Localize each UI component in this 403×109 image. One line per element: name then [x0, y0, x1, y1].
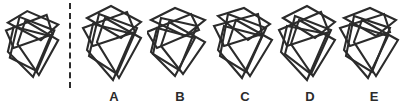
puzzle-page: A B C D E — [0, 0, 403, 109]
dashed-divider — [69, 3, 71, 88]
option-e-svg — [338, 0, 403, 88]
option-label-b[interactable]: B — [168, 88, 192, 106]
reference-figure — [4, 0, 66, 88]
option-figure-e[interactable] — [338, 0, 403, 88]
option-b-svg — [147, 0, 213, 88]
reference-figure-svg — [4, 0, 66, 88]
option-figure-d[interactable] — [277, 0, 343, 88]
option-a-svg — [81, 0, 147, 88]
option-label-a[interactable]: A — [102, 88, 126, 106]
option-d-svg — [277, 0, 343, 88]
option-figure-b[interactable] — [147, 0, 213, 88]
option-label-e[interactable]: E — [362, 88, 386, 106]
option-label-c[interactable]: C — [233, 88, 257, 106]
option-figure-a[interactable] — [81, 0, 147, 88]
option-label-d[interactable]: D — [298, 88, 322, 106]
option-figure-c[interactable] — [212, 0, 278, 88]
option-c-svg — [212, 0, 278, 88]
option-labels-row: A B C D E — [0, 88, 403, 109]
